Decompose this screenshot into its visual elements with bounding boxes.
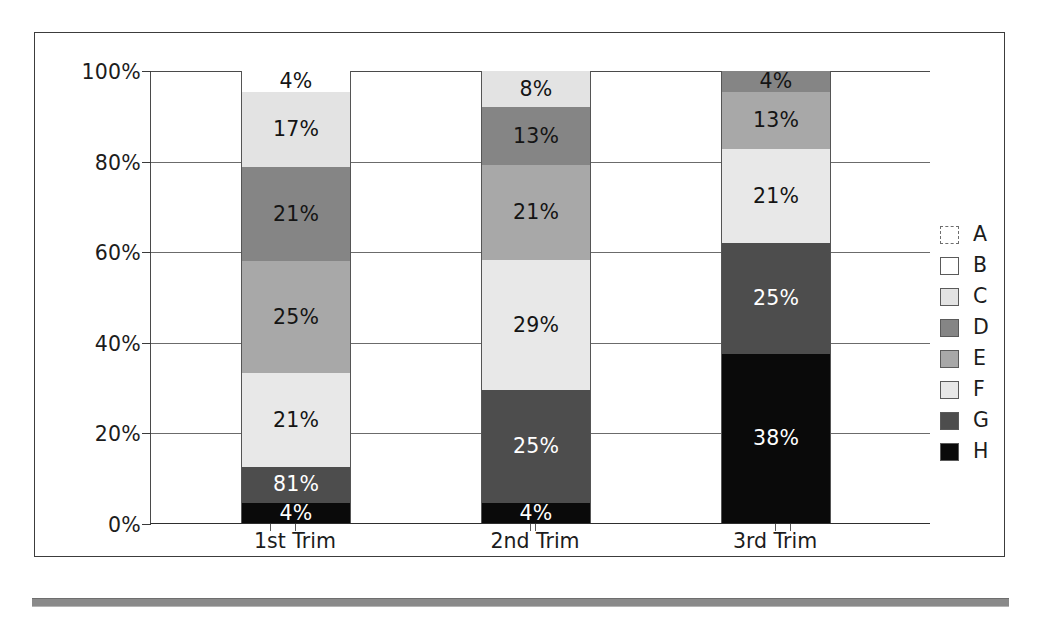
segment-value-label: 21% (273, 410, 319, 431)
bar-segment-h[interactable]: 4% (242, 503, 350, 524)
bar-segment-e[interactable]: 13% (722, 92, 830, 150)
segment-value-label: 8% (520, 79, 553, 100)
legend-item-d[interactable]: D (940, 312, 1026, 343)
y-axis-label: 80% (95, 151, 141, 175)
segment-value-label: 13% (753, 110, 799, 131)
bar-segment-f[interactable]: 21% (242, 373, 350, 467)
plot-area: 4%17%21%25%21%81%4%8%13%21%29%25%4%4%13%… (150, 71, 930, 524)
y-axis-label: 0% (108, 513, 141, 537)
y-axis-label: 60% (95, 241, 141, 265)
y-axis-label: 100% (82, 60, 141, 84)
legend-label: C (973, 286, 987, 307)
bar-segment-g[interactable]: 25% (482, 390, 590, 502)
y-axis-tick (142, 252, 151, 253)
bar-1st-trim[interactable]: 4%17%21%25%21%81%4% (241, 71, 351, 523)
y-axis-label: 40% (95, 332, 141, 356)
legend: ABCDEFGH (940, 219, 1026, 467)
legend-label: F (973, 379, 985, 400)
segment-value-label: 25% (273, 307, 319, 328)
x-axis-label: 1st Trim (195, 529, 395, 553)
segment-value-label: 21% (273, 204, 319, 225)
legend-item-e[interactable]: E (940, 343, 1026, 374)
y-axis-tick (142, 524, 151, 525)
bar-segment-e[interactable]: 21% (482, 165, 590, 259)
legend-item-a[interactable]: A (940, 219, 1026, 250)
bar-segment-d[interactable]: 21% (242, 167, 350, 261)
legend-swatch-icon (940, 350, 959, 368)
legend-item-b[interactable]: B (940, 250, 1026, 281)
y-axis-label: 20% (95, 422, 141, 446)
legend-label: G (973, 410, 989, 431)
segment-value-label: 4% (280, 71, 313, 92)
bar-segment-f[interactable]: 21% (722, 149, 830, 242)
legend-swatch-icon (940, 443, 959, 461)
segment-value-label: 81% (273, 474, 319, 495)
segment-value-label: 4% (520, 503, 553, 524)
bar-segment-c[interactable]: 8% (482, 71, 590, 107)
legend-swatch-icon (940, 257, 959, 275)
segment-value-label: 4% (760, 71, 793, 92)
y-axis-tick (142, 162, 151, 163)
legend-label: E (973, 348, 986, 369)
legend-label: D (973, 317, 989, 338)
legend-label: B (973, 255, 987, 276)
bar-segment-e[interactable]: 25% (242, 261, 350, 373)
legend-swatch-icon (940, 381, 959, 399)
segment-value-label: 25% (513, 436, 559, 457)
x-axis-label: 2nd Trim (435, 529, 635, 553)
y-axis-tick (142, 433, 151, 434)
segment-value-label: 13% (513, 126, 559, 147)
segment-value-label: 25% (753, 288, 799, 309)
bar-segment-h[interactable]: 38% (722, 354, 830, 523)
legend-item-h[interactable]: H (940, 436, 1026, 467)
bar-segment-g[interactable]: 25% (722, 243, 830, 354)
x-axis-label: 3rd Trim (675, 529, 875, 553)
legend-label: H (973, 441, 988, 462)
legend-item-c[interactable]: C (940, 281, 1026, 312)
x-axis-separator-tick (790, 524, 791, 531)
legend-label: A (973, 224, 987, 245)
bar-segment-b[interactable]: 4% (242, 71, 350, 92)
segment-value-label: 4% (280, 503, 313, 524)
legend-item-g[interactable]: G (940, 405, 1026, 436)
horizontal-rule (32, 598, 1009, 607)
segment-value-label: 17% (273, 119, 319, 140)
bar-segment-c[interactable]: 17% (242, 92, 350, 168)
x-axis-separator-tick (270, 524, 271, 531)
segment-value-label: 21% (513, 202, 559, 223)
legend-swatch-icon (940, 412, 959, 430)
segment-value-label: 38% (753, 428, 799, 449)
x-axis-separator-tick (530, 524, 531, 531)
bar-segment-h[interactable]: 4% (482, 503, 590, 524)
y-axis-tick (142, 343, 151, 344)
legend-swatch-icon (940, 288, 959, 306)
y-axis: 0%20%40%60%80%100% (63, 71, 141, 524)
bar-segment-g[interactable]: 81% (242, 467, 350, 503)
bar-segment-f[interactable]: 29% (482, 260, 590, 390)
legend-item-f[interactable]: F (940, 374, 1026, 405)
segment-value-label: 21% (753, 186, 799, 207)
bar-2nd-trim[interactable]: 8%13%21%29%25%4% (481, 71, 591, 523)
bar-3rd-trim[interactable]: 4%13%21%25%38% (721, 71, 831, 523)
x-axis: 1st Trim2nd Trim3rd Trim (150, 529, 930, 563)
legend-swatch-icon (940, 319, 959, 337)
segment-value-label: 29% (513, 315, 559, 336)
bar-segment-d[interactable]: 4% (722, 71, 830, 92)
legend-swatch-icon (940, 226, 959, 244)
y-axis-tick (142, 71, 151, 72)
chart-frame: 0%20%40%60%80%100% 4%17%21%25%21%81%4%8%… (34, 32, 1005, 557)
bar-segment-d[interactable]: 13% (482, 107, 590, 165)
